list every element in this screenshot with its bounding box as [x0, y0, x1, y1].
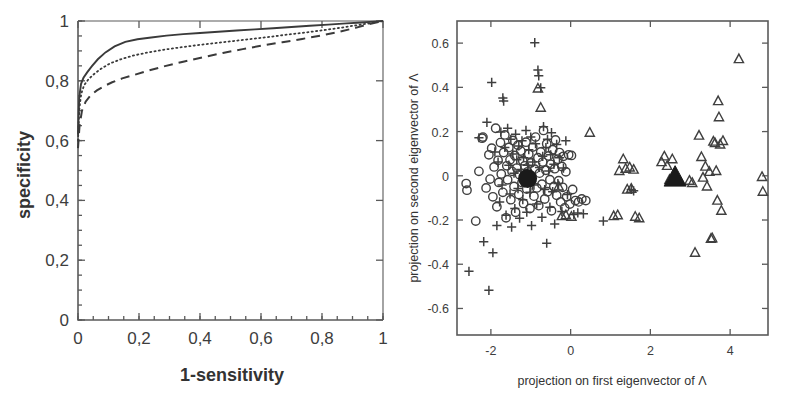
- roc-x-tick-label: 0,8: [310, 329, 334, 348]
- scatter-y-tick-label: -0.4: [427, 258, 449, 272]
- scatter-marker-plus: [482, 118, 491, 127]
- roc-y-tick-label: 0,8: [45, 72, 69, 91]
- scatter-marker-plus: [464, 267, 473, 276]
- scatter-y-tick-label: 0.2: [432, 126, 449, 140]
- roc-x-axis-title: 1-sensitivity: [180, 365, 284, 385]
- scatter-marker-triangle: [702, 181, 711, 190]
- scatter-y-tick-label: 0.4: [432, 81, 449, 95]
- roc-y-tick-label: 1: [60, 12, 69, 31]
- scatter-centroid-circle: [518, 169, 537, 188]
- scatter-marker-circle: [475, 167, 483, 175]
- scatter-marker-plus: [522, 208, 531, 217]
- roc-y-tick-label: 0,2: [45, 251, 69, 270]
- scatter-marker-plus: [550, 219, 559, 228]
- scatter-marker-circle: [486, 175, 494, 183]
- figure-container: 00,20,40,60,8100,20,40,60,81 1-sensitivi…: [0, 0, 797, 405]
- roc-axis-frame-top-right: [78, 21, 383, 320]
- roc-x-tick-label: 0,6: [249, 329, 273, 348]
- roc-y-tick-label: 0,6: [45, 132, 69, 151]
- scatter-marker-circle: [511, 208, 519, 216]
- scatter-marker-circle: [496, 138, 504, 146]
- scatter-marker-plus: [527, 221, 536, 230]
- roc-curve-group: [78, 21, 383, 148]
- scatter-marker-triangle: [714, 112, 723, 121]
- scatter-marker-circle: [507, 195, 515, 203]
- scatter-marker-circle: [491, 124, 499, 132]
- scatter-marker-circle: [472, 217, 480, 225]
- scatter-marker-triangle: [536, 103, 545, 112]
- roc-y-tick-label: 0: [60, 311, 69, 330]
- scatter-x-tick-label: -2: [485, 344, 496, 358]
- scatter-marker-plus: [537, 213, 546, 222]
- scatter-chart-panel: -2024-0.6-0.4-0.200.20.40.6 projection o…: [400, 0, 797, 405]
- roc-tick-group: [78, 21, 383, 320]
- scatter-marker-circle: [515, 190, 523, 198]
- roc-svg: 00,20,40,60,8100,20,40,60,81 1-sensitivi…: [0, 0, 400, 405]
- scatter-marker-triangle: [619, 154, 628, 163]
- scatter-marker-plus: [488, 248, 497, 257]
- scatter-marker-triangle: [713, 196, 722, 205]
- scatter-marker-plus: [521, 126, 530, 135]
- roc-y-tick-label: 0,4: [45, 191, 69, 210]
- scatter-marker-triangle: [660, 151, 669, 160]
- scatter-marker-triangle: [694, 131, 703, 140]
- scatter-marker-plus: [559, 163, 568, 172]
- scatter-marker-circle: [499, 148, 507, 156]
- scatter-marker-triangle: [668, 154, 677, 163]
- scatter-x-tick-label: 0: [567, 344, 574, 358]
- scatter-point-group: [462, 38, 767, 295]
- scatter-marker-plus: [479, 237, 488, 246]
- scatter-marker-plus: [533, 65, 542, 74]
- roc-y-axis-title: specificity: [14, 131, 34, 219]
- scatter-marker-circle: [551, 136, 559, 144]
- scatter-marker-plus: [561, 136, 570, 145]
- scatter-y-tick-label: 0: [442, 170, 449, 184]
- scatter-y-tick-label: -0.6: [427, 302, 449, 316]
- scatter-marker-triangle: [714, 96, 723, 105]
- roc-x-tick-label: 1: [378, 329, 387, 348]
- scatter-marker-plus: [599, 217, 608, 226]
- scatter-marker-circle: [489, 193, 497, 201]
- scatter-marker-plus: [515, 214, 524, 223]
- roc-x-tick-label: 0,2: [127, 329, 151, 348]
- scatter-marker-plus: [540, 185, 549, 194]
- scatter-marker-circle: [482, 184, 490, 192]
- scatter-y-tick-label: 0.6: [432, 37, 449, 51]
- scatter-y-axis-title: projection on second eigenvector of Λ: [407, 73, 421, 283]
- scatter-marker-plus: [511, 130, 520, 139]
- scatter-marker-plus: [542, 239, 551, 248]
- roc-curve-dashed: [78, 21, 383, 148]
- roc-x-tick-label: 0,4: [188, 329, 212, 348]
- scatter-marker-triangle: [758, 187, 767, 196]
- scatter-marker-plus: [490, 147, 499, 156]
- scatter-marker-triangle: [717, 206, 726, 215]
- roc-chart-panel: 00,20,40,60,8100,20,40,60,81 1-sensitivi…: [0, 0, 400, 405]
- scatter-marker-plus: [507, 222, 516, 231]
- scatter-marker-circle: [530, 192, 538, 200]
- roc-axis-frame: [78, 21, 383, 320]
- scatter-marker-plus: [501, 211, 510, 220]
- scatter-marker-plus: [534, 71, 543, 80]
- scatter-marker-triangle: [585, 128, 594, 137]
- scatter-x-axis-title: projection on first eigenvector of Λ: [517, 374, 707, 388]
- scatter-marker-plus: [530, 38, 539, 47]
- scatter-x-tick-label: 4: [727, 344, 734, 358]
- scatter-marker-triangle: [690, 248, 699, 257]
- scatter-marker-circle: [568, 185, 576, 193]
- scatter-marker-circle: [503, 176, 511, 184]
- scatter-marker-plus: [579, 209, 588, 218]
- scatter-y-tick-label: -0.2: [427, 214, 449, 228]
- roc-curve-dotted: [78, 21, 383, 141]
- roc-x-tick-label: 0: [73, 329, 82, 348]
- scatter-marker-circle: [499, 188, 507, 196]
- scatter-marker-plus: [539, 122, 548, 131]
- scatter-x-tick-label: 2: [647, 344, 654, 358]
- scatter-marker-triangle: [697, 152, 706, 161]
- scatter-marker-plus: [492, 221, 501, 230]
- roc-tick-label-group: 00,20,40,60,8100,20,40,60,81: [45, 12, 387, 348]
- scatter-marker-plus: [484, 286, 493, 295]
- scatter-marker-triangle: [712, 166, 721, 175]
- scatter-marker-triangle: [734, 54, 743, 63]
- scatter-marker-plus: [487, 78, 496, 87]
- scatter-svg: -2024-0.6-0.4-0.200.20.40.6 projection o…: [400, 0, 797, 405]
